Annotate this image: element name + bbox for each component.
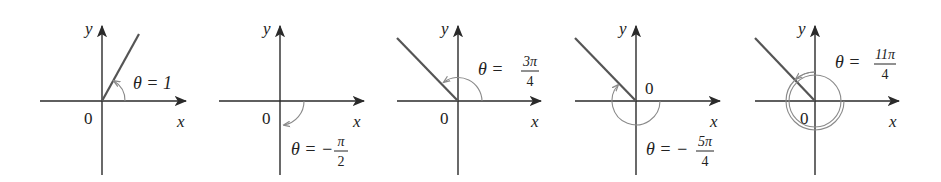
theta-numerator: 11π <box>875 47 896 62</box>
angles-figure: y 0 x θ = 1 y 0 x θ = − π 2 y 0 x θ = 3π… <box>0 0 941 182</box>
origin-label: 0 <box>84 109 93 128</box>
theta-denominator: 2 <box>338 154 345 169</box>
panel-theta-3pi-over-4: y 0 x θ = 3π 4 <box>397 19 541 175</box>
x-label: x <box>176 112 185 131</box>
x-label: x <box>530 112 539 131</box>
x-label: x <box>888 112 897 131</box>
panel-theta-neg-pi-over-2: y 0 x θ = − π 2 <box>219 19 364 175</box>
terminal-ray <box>755 38 815 101</box>
terminal-ray <box>575 38 636 101</box>
y-label: y <box>617 19 627 38</box>
y-label: y <box>261 19 271 38</box>
panel-theta-1: y 0 x θ = 1 <box>40 19 186 175</box>
theta-label: θ = − <box>646 139 688 159</box>
theta-label: θ = <box>478 59 504 79</box>
theta-numerator: π <box>337 134 345 149</box>
panel-theta-11pi-over-4: y 0 x θ = 11π 4 <box>755 19 899 175</box>
x-label: x <box>352 112 361 131</box>
panel-theta-neg-5pi-over-4: y 0 x θ = − 5π 4 <box>575 19 720 175</box>
angle-arc <box>444 77 482 101</box>
origin-label: 0 <box>262 109 271 128</box>
origin-label: 0 <box>645 79 654 98</box>
y-label: y <box>83 19 93 38</box>
y-label: y <box>439 19 449 38</box>
terminal-ray <box>397 38 458 101</box>
x-label: x <box>709 112 718 131</box>
theta-denominator: 4 <box>702 154 709 169</box>
theta-label: θ = 1 <box>133 73 172 93</box>
theta-denominator: 4 <box>527 74 534 89</box>
theta-label: θ = <box>835 52 861 72</box>
theta-denominator: 4 <box>882 67 889 82</box>
origin-label: 0 <box>800 109 809 128</box>
angle-arc <box>114 81 125 101</box>
angle-arc <box>284 101 304 125</box>
theta-label: θ = − <box>291 139 333 159</box>
y-label: y <box>796 19 806 38</box>
origin-label: 0 <box>440 109 449 128</box>
theta-numerator: 5π <box>698 134 713 149</box>
theta-numerator: 3π <box>522 54 538 69</box>
